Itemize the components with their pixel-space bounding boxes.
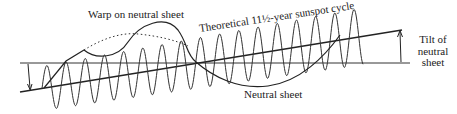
tilt-label-line-3: sheet [410,57,456,69]
left-arrow-shaft [28,64,30,88]
warp-label: Warp on neutral sheet [88,9,184,20]
warped-neutral-sheet-curve [44,22,340,88]
right-arrow-shaft [400,32,401,62]
tilted-sheet-line [20,30,402,92]
dotted-theoretical-arc [84,34,188,50]
neutral-sheet-label: Neutral sheet [244,89,302,100]
tilt-label-line-1: Tilt of [410,34,456,46]
tilt-label: Tilt of neutral sheet [410,34,456,69]
neutral-sheet-diagram: Warp on neutral sheet Theoretical 11½-ye… [0,0,457,114]
